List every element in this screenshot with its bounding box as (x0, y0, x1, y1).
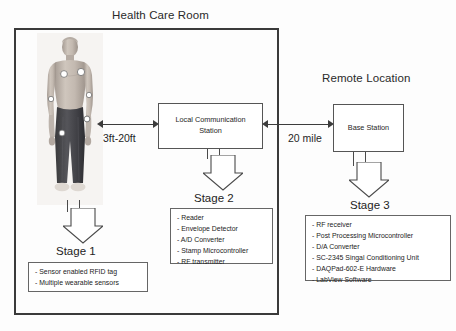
block-arrow-down-stage1-icon (63, 208, 103, 244)
stage3-details-box: RF receiverPost Processing Microcontroll… (305, 215, 451, 281)
stage1-caption: Stage 1 (56, 245, 96, 257)
list-item: Multiple wearable sensors (35, 278, 141, 289)
link-arrow-person-to-local-station (97, 120, 159, 129)
arrow-shaft (266, 124, 330, 125)
list-item: Post Processing Microcontroller (312, 231, 444, 242)
list-item: Sensor enabled RFID tag (35, 267, 141, 278)
block-arrow-down-stage3-icon (349, 162, 389, 198)
room-title: Health Care Room (112, 9, 209, 21)
link-arrow-local-station-to-base-station (262, 120, 334, 129)
stage2-caption: Stage 2 (194, 192, 234, 204)
local-communication-station-label-line1: Local Communication (175, 115, 245, 124)
list-item: LabView Software (312, 275, 444, 286)
distance-label-station-to-base: 20 mile (288, 132, 322, 144)
local-communication-station-box: Local Communication Station (158, 103, 263, 149)
list-item: Envelope Detector (177, 224, 266, 235)
diagram-canvas: Health Care Room Remote Location (0, 0, 456, 331)
list-item: Reader (177, 213, 266, 224)
list-item: DAQPad-602-E Hardware (312, 264, 444, 275)
distance-label-person-to-station: 3ft-20ft (103, 132, 136, 144)
list-item: RF transmitter (177, 257, 266, 268)
arrow-shaft (101, 124, 155, 125)
patient-figure (37, 33, 103, 205)
remote-location-title: Remote Location (322, 72, 410, 84)
list-item: RF receiver (312, 220, 444, 231)
list-item: D/A Converter (312, 242, 444, 253)
list-item: SC-2345 Singal Conditioning Unit (312, 253, 444, 264)
base-station-label: Base Station (348, 123, 389, 134)
stage1-details-box: Sensor enabled RFID tagMultiple wearable… (28, 262, 148, 292)
stage3-item-list: RF receiverPost Processing Microcontroll… (312, 220, 444, 285)
list-item: Stamp Microcontroller (177, 246, 266, 257)
local-communication-station-label-line2: Station (199, 126, 222, 135)
list-item: A/D Converter (177, 235, 266, 246)
stage3-caption: Stage 3 (350, 199, 390, 211)
stage2-item-list: ReaderEnvelope DetectorA/D ConverterStam… (177, 213, 266, 268)
stage2-details-box: ReaderEnvelope DetectorA/D ConverterStam… (170, 208, 273, 264)
base-station-box: Base Station (333, 104, 404, 152)
stage1-item-list: Sensor enabled RFID tagMultiple wearable… (35, 267, 141, 289)
block-arrow-down-stage2-icon (203, 155, 243, 191)
